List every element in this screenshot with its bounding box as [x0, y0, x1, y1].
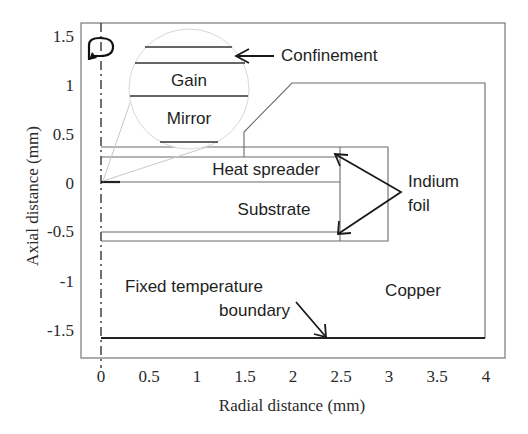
svg-text:1: 1	[66, 76, 75, 95]
label-heat-spreader: Heat spreader	[212, 160, 320, 179]
svg-text:0.5: 0.5	[138, 367, 159, 386]
label-copper: Copper	[385, 281, 441, 300]
svg-text:3.5: 3.5	[426, 367, 447, 386]
svg-text:4: 4	[482, 367, 491, 386]
svg-text:2.5: 2.5	[330, 367, 351, 386]
label-boundary: boundary	[219, 301, 290, 320]
x-axis-ticks: 0 0.5 1 1.5 2 2.5 3 3.5 4	[97, 367, 491, 386]
zoom-cone-right	[103, 146, 210, 181]
label-confinement: Confinement	[281, 46, 378, 65]
svg-text:2: 2	[289, 367, 298, 386]
svg-text:-1.5: -1.5	[47, 321, 74, 340]
boundary-arrow-icon	[296, 302, 326, 337]
x-axis-label: Radial distance (mm)	[219, 396, 365, 415]
zoom-cone-left	[103, 100, 131, 181]
label-mirror: Mirror	[167, 109, 212, 128]
svg-text:-0.5: -0.5	[47, 222, 74, 241]
label-substrate: Substrate	[238, 200, 311, 219]
svg-text:0.5: 0.5	[53, 125, 74, 144]
label-fixed-temperature: Fixed temperature	[125, 277, 263, 296]
svg-text:-1: -1	[60, 272, 74, 291]
label-indium: Indium	[408, 172, 459, 191]
y-axis-label: Axial distance (mm)	[23, 126, 42, 266]
label-foil: foil	[408, 196, 430, 215]
svg-text:3: 3	[385, 367, 394, 386]
svg-text:0: 0	[66, 174, 75, 193]
indium-arrow-icon	[335, 154, 401, 234]
svg-text:1: 1	[193, 367, 202, 386]
thermal-model-diagram: Gain Mirror Confinement Heat spreader Su…	[0, 0, 528, 434]
svg-text:0: 0	[97, 367, 106, 386]
svg-text:1.5: 1.5	[234, 367, 255, 386]
y-axis-ticks: 1.5 1 0.5 0 -0.5 -1 -1.5	[47, 27, 74, 340]
label-gain: Gain	[171, 71, 207, 90]
svg-text:1.5: 1.5	[53, 27, 74, 46]
